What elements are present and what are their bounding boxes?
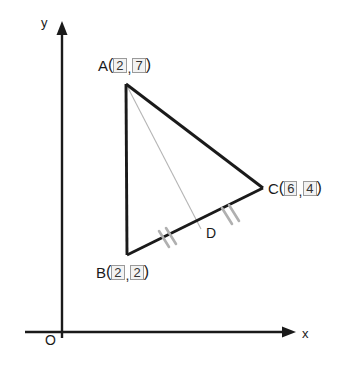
x-axis [25,327,296,338]
triangle-side-bc [127,188,263,255]
point-b-x-field[interactable]: 2 [111,265,124,280]
point-b-comma: , [125,268,131,282]
point-label-c: C ( 6 , 4 ) [268,180,322,196]
point-a-comma: , [127,61,133,75]
point-c-y-field[interactable]: 4 [303,181,316,196]
point-label-b: B ( 2 , 2 ) [96,264,149,280]
paren-close-a: ) [146,57,151,73]
triangle-side-ab [126,84,127,255]
triangle-side-ac [126,84,263,188]
origin-label: O [45,333,56,347]
paren-close-c: ) [317,180,322,196]
y-axis-arrowhead-icon [57,21,68,35]
point-a-y-field[interactable]: 7 [132,58,145,73]
y-axis-label: y [41,16,48,29]
point-name-a: A [98,58,108,73]
point-c-comma: , [297,184,303,198]
point-label-d: D [206,226,216,240]
tick-mark-dc-2 [229,205,239,221]
point-a-x-field[interactable]: 2 [113,58,126,73]
triangle-abc [126,84,263,255]
point-label-a: A ( 2 , 7 ) [98,57,151,73]
x-axis-label: x [302,327,309,340]
point-b-y-field[interactable]: 2 [130,265,143,280]
paren-close-b: ) [144,264,149,280]
point-name-b: B [96,265,106,280]
point-name-c: C [268,181,279,196]
point-c-x-field[interactable]: 6 [284,181,297,196]
tick-mark-dc-1 [222,208,232,224]
median-segment-ad [126,84,201,229]
x-axis-arrowhead-icon [282,327,296,338]
y-axis [57,21,68,338]
